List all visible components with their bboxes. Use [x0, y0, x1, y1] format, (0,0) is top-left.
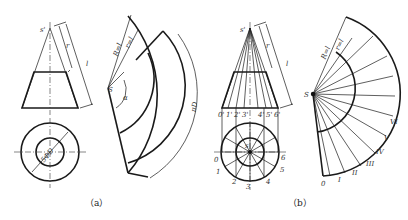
apex-label-b: s'	[240, 26, 246, 34]
front-view-a: s' r l	[22, 22, 93, 115]
top-view-a: 5ΦD	[14, 118, 86, 188]
point-label: 0	[214, 156, 219, 164]
base-label: 4'	[257, 111, 264, 119]
dim-l-label-b: l	[286, 60, 288, 68]
caption-a: （a）	[85, 198, 108, 208]
generator-label: III	[365, 160, 375, 168]
caption-b: （b）	[288, 198, 312, 208]
generator-label: IV	[375, 148, 385, 156]
diameter-label: 5ΦD	[39, 147, 56, 165]
dim-r-label-b: r	[266, 42, 270, 50]
base-label: 1'	[226, 111, 232, 119]
generator-label: I	[337, 176, 341, 184]
base-label: 3'	[242, 111, 248, 119]
development-b: S R=l r=l 0 I II III IV V VI	[304, 17, 400, 188]
apex-s-label-b: S	[304, 91, 309, 99]
dim-l-label: l	[86, 60, 88, 68]
cone-development-drawing: s' r l 5ΦD	[0, 0, 408, 220]
development-a: S R=l r=l α πD	[108, 15, 199, 178]
center-s-label: s	[245, 142, 249, 150]
point-label: 3	[246, 183, 251, 191]
radius-outer-label: R=l	[111, 42, 123, 58]
base-label: 5'	[266, 111, 272, 119]
base-label: 2'	[233, 111, 240, 119]
base-label: 0'	[218, 111, 224, 119]
point-label: 4	[265, 178, 270, 186]
apex-s-label: S	[108, 86, 113, 94]
top-view-b: s 0 1 2 3 4 5 6	[214, 108, 286, 191]
point-label: 6	[281, 154, 286, 162]
point-label: 5	[280, 166, 285, 174]
angle-label: α	[123, 94, 128, 102]
base-label: 6'	[274, 111, 280, 119]
generator-label: II	[351, 169, 358, 177]
generator-label: VI	[390, 118, 398, 126]
panel-a: s' r l 5ΦD	[14, 15, 199, 208]
point-label: 1	[216, 168, 220, 176]
apex-label: s'	[40, 26, 46, 34]
generator-label: 0	[321, 180, 326, 188]
point-label: 2	[231, 178, 237, 186]
dim-r-label: r	[66, 42, 70, 50]
arc-length-label: πD	[190, 101, 200, 114]
panel-b: s' r l 0' 1' 2' 3' 4' 5' 6'	[214, 17, 400, 208]
